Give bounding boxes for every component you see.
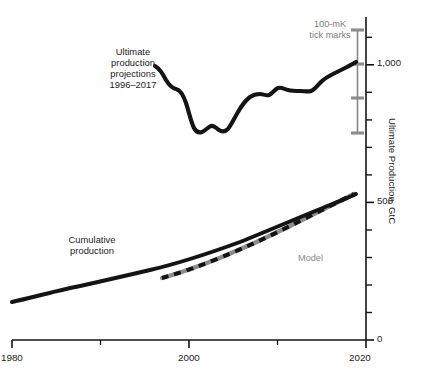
chart-plot-area [0, 0, 431, 377]
x-axis-tick-label-1980: 1980 [1, 352, 23, 363]
y-axis-major-ticks [366, 65, 374, 340]
annotation-model: Model [298, 253, 323, 264]
annotation-cumulative-production: Cumulative production [50, 234, 134, 256]
scale-bar-100mk [351, 30, 364, 133]
figure-caption [1, 369, 430, 377]
annotation-ultimate-production-projections: Ultimate production projections 1996–201… [96, 46, 170, 90]
x-axis-tick-label-2000: 2000 [178, 352, 200, 363]
figure-ultimate-production-chart: Ultimate production projections 1996–201… [0, 0, 431, 377]
y-axis-minor-ticks [366, 37, 372, 312]
series-ultimate-production-projections [155, 62, 356, 132]
y-axis-title: Ultimate Production, GtC [387, 118, 398, 224]
x-axis-tick-label-2020: 2020 [349, 352, 371, 363]
annotation-100mk-tick-marks: 100-mK tick marks [297, 19, 363, 41]
x-axis-major-ticks [12, 340, 366, 348]
y-axis-tick-label-1000: 1,000 [377, 57, 401, 68]
y-axis-tick-label-0: 0 [377, 333, 382, 344]
